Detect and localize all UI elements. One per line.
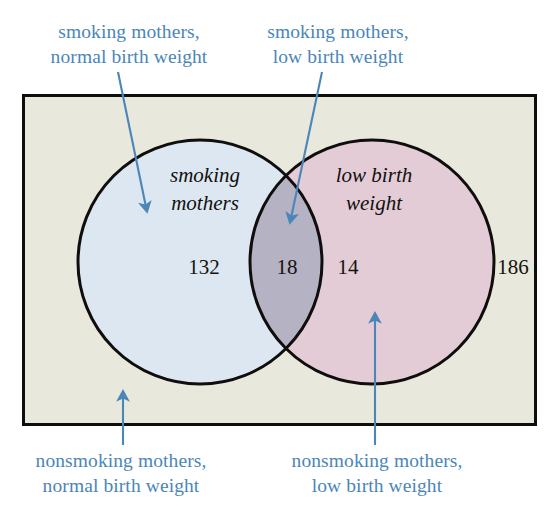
- callout-smoking-normal: smoking mothers, normal birth weight: [18, 20, 240, 70]
- venn-diagram-figure: smoking mothers low birth weight 132 18 …: [0, 0, 559, 526]
- count-nonsmoking-low: 14: [322, 255, 374, 280]
- callout-nonsmoking-low-line2: low birth weight: [268, 474, 486, 499]
- left-set-label: smoking mothers: [140, 162, 270, 217]
- right-set-label-line1: low birth: [312, 162, 436, 190]
- count-nonsmoking-normal: 186: [486, 255, 540, 280]
- callout-smoking-normal-line1: smoking mothers,: [18, 20, 240, 45]
- callout-smoking-normal-line2: normal birth weight: [18, 45, 240, 70]
- callout-smoking-low-line1: smoking mothers,: [238, 20, 438, 45]
- callout-nonsmoking-normal-line1: nonsmoking mothers,: [10, 449, 232, 474]
- count-smoking-low: 18: [261, 255, 313, 280]
- callout-nonsmoking-normal-line2: normal birth weight: [10, 474, 232, 499]
- callout-smoking-low: smoking mothers, low birth weight: [238, 20, 438, 70]
- callout-nonsmoking-low: nonsmoking mothers, low birth weight: [268, 449, 486, 499]
- left-set-label-line2: mothers: [140, 190, 270, 218]
- right-set-label-line2: weight: [312, 190, 436, 218]
- callout-smoking-low-line2: low birth weight: [238, 45, 438, 70]
- callout-nonsmoking-low-line1: nonsmoking mothers,: [268, 449, 486, 474]
- count-smoking-normal: 132: [176, 255, 232, 280]
- callout-nonsmoking-normal: nonsmoking mothers, normal birth weight: [10, 449, 232, 499]
- right-set-label: low birth weight: [312, 162, 436, 217]
- left-set-label-line1: smoking: [140, 162, 270, 190]
